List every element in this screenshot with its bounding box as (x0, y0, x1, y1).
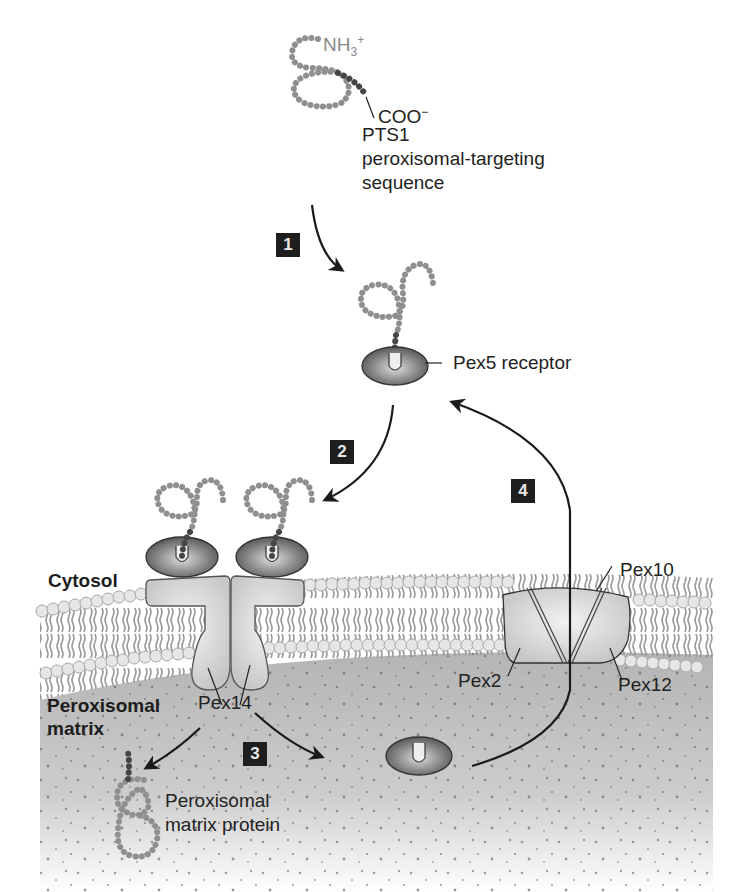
matrix-protein-label-line1: Peroxisomal (165, 790, 270, 812)
pex5-receptor-released (386, 737, 452, 775)
pts1-description-line1: peroxisomal-targeting (362, 148, 545, 170)
pts1-label: PTS1 (362, 124, 410, 146)
pex14-label: Pex14 (198, 692, 252, 714)
pex5-receptor-free (362, 347, 442, 385)
cytosol-label: Cytosol (48, 570, 118, 592)
n-terminus-label: NH3+ (323, 29, 364, 63)
pts1-segment (338, 73, 365, 94)
pts1-pointer (366, 97, 374, 118)
pts1-description-line2: sequence (362, 172, 444, 194)
step-badge-4: 4 (511, 479, 535, 503)
peroxisomal-matrix-label-line1: Peroxisomal (47, 695, 160, 717)
pex10-label: Pex10 (620, 559, 674, 581)
matrix-protein-label-line2: matrix protein (165, 814, 280, 836)
pex2-label: Pex2 (458, 670, 501, 692)
step-badge-3: 3 (243, 742, 267, 766)
peroxisomal-matrix-label-line2: matrix (47, 718, 104, 740)
pex12-label: Pex12 (618, 674, 672, 696)
peroxisome-import-diagram: 1 2 3 4 NH3+ COO− PTS1 peroxisomal-targe… (0, 0, 741, 892)
pex5-receptor-label: Pex5 receptor (453, 352, 571, 374)
step-badge-1: 1 (276, 233, 300, 257)
arrow-step-1 (312, 205, 342, 270)
step-badge-2: 2 (330, 440, 354, 464)
